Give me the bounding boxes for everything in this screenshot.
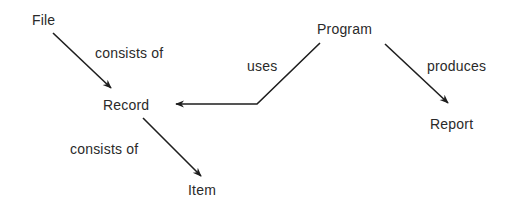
node-report: Report <box>430 116 473 132</box>
edge-label-program-report: produces <box>427 58 486 74</box>
node-record: Record <box>103 97 149 113</box>
node-program: Program <box>317 21 372 37</box>
node-file: File <box>32 12 55 28</box>
node-item: Item <box>188 182 216 198</box>
edge-label-file-record: consists of <box>95 45 163 61</box>
edge-label-program-record: uses <box>247 58 277 74</box>
edge-record-item-arrow <box>143 118 201 176</box>
entity-relationship-diagram: File Program Record Report Item consists… <box>0 0 529 211</box>
edge-label-record-item: consists of <box>70 141 138 157</box>
diagram-edges <box>0 0 529 211</box>
